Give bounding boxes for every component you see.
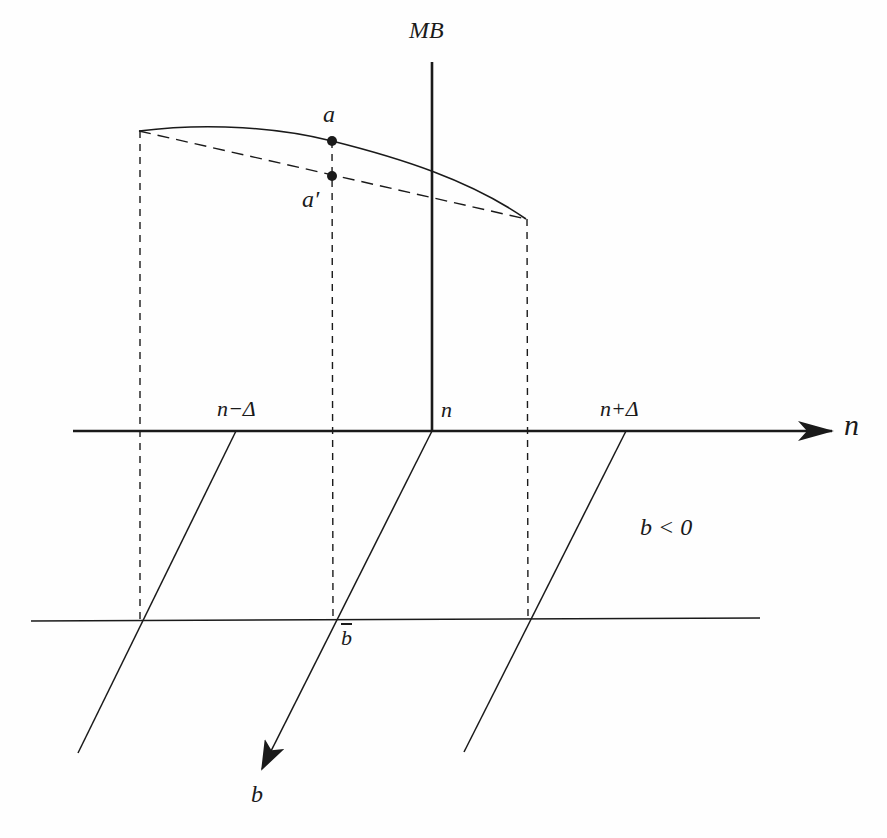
dashed-vertical-right <box>527 219 528 619</box>
tick-label-b-bar: b <box>341 627 352 649</box>
diagram-canvas: MB n b n−Δ n n+Δ b a a′ b < 0 <box>0 0 887 838</box>
tick-label-n-minus-delta: n−Δ <box>217 398 256 420</box>
point-a <box>327 136 337 146</box>
region-label: b < 0 <box>640 515 692 539</box>
b-axis <box>262 431 432 769</box>
n-axis-label: n <box>844 410 859 440</box>
dashed-vertical-middle <box>332 141 333 621</box>
point-a-prime <box>327 171 337 181</box>
tick-label-n: n <box>441 399 452 421</box>
b-axis-label: b <box>251 782 263 806</box>
point-a-label: a <box>323 102 335 126</box>
tick-label-n-plus-delta: n+Δ <box>600 398 639 420</box>
diagonal-n-minus-delta <box>78 431 236 753</box>
point-a-prime-label: a′ <box>302 187 319 211</box>
diagonal-n-plus-delta <box>464 431 626 752</box>
mb-axis-label: MB <box>409 18 444 42</box>
